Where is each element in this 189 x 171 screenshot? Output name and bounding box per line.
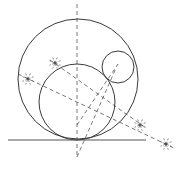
small-circle (102, 51, 134, 83)
circles (18, 19, 138, 140)
marker-1-star-icon (22, 73, 33, 84)
large-circle (18, 19, 138, 139)
marker-2-star-icon (49, 57, 60, 68)
geometry-diagram (0, 0, 189, 171)
marker-4-star-icon (160, 138, 171, 149)
construction-lines (18, 4, 176, 158)
